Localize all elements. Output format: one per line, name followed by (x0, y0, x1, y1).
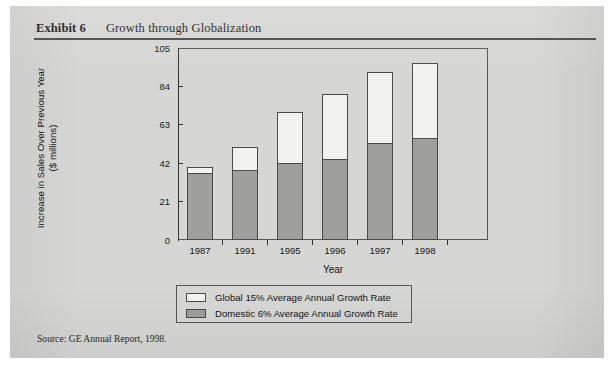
y-axis-title-line2: ($ millions) (47, 53, 59, 243)
bar-1987 (187, 167, 213, 240)
y-axis-title: Increase in Sales Over Previous Year ($ … (35, 53, 59, 243)
y-tick-label-84: 84 (136, 81, 170, 92)
bar-segment-domestic-1987 (187, 173, 213, 240)
x-tick-label-1991: 1991 (222, 245, 268, 256)
y-axis-line (178, 48, 179, 241)
legend-label-global: Global 15% Average Annual Growth Rate (215, 292, 391, 303)
y-tick-mark-63 (178, 124, 183, 125)
legend-entry-domestic: Domestic 6% Average Annual Growth Rate (186, 306, 411, 320)
y-tick-label-0: 0 (136, 235, 170, 246)
x-tick-label-1987: 1987 (177, 245, 223, 256)
legend-label-domestic: Domestic 6% Average Annual Growth Rate (215, 308, 398, 319)
y-tick-label-105: 105 (136, 43, 170, 54)
bar-1996 (322, 94, 348, 240)
bar-1997 (367, 72, 393, 240)
bar-segment-domestic-1991 (232, 170, 258, 240)
source-note: Source: GE Annual Report, 1998. (37, 333, 167, 344)
bar-segment-domestic-1996 (322, 159, 348, 240)
x-tick-label-1996: 1996 (312, 245, 358, 256)
y-tick-mark-84 (178, 86, 183, 87)
x-axis-title: Year (178, 264, 488, 275)
x-tick-label-1997: 1997 (357, 245, 403, 256)
bar-segment-domestic-1997 (367, 143, 393, 240)
bar-1998 (412, 63, 438, 240)
y-tick-mark-21 (178, 201, 183, 202)
y-tick-label-21: 21 (136, 196, 170, 207)
bar-segment-domestic-1995 (277, 163, 303, 240)
chart: 105 84 63 42 21 0 (10, 6, 604, 358)
legend-entry-global: Global 15% Average Annual Growth Rate (186, 290, 411, 304)
legend-swatch-domestic (186, 309, 206, 318)
x-tick-label-1998: 1998 (402, 245, 448, 256)
y-tick-label-63: 63 (136, 119, 170, 130)
y-axis-title-line1: Increase in Sales Over Previous Year (35, 53, 47, 243)
y-tick-mark-42 (178, 163, 183, 164)
legend-swatch-global (186, 293, 206, 302)
scanned-page: Exhibit 6 Growth through Globalization 1… (10, 6, 604, 358)
x-tick-label-1995: 1995 (267, 245, 313, 256)
bar-1991 (232, 147, 258, 240)
bar-segment-domestic-1998 (412, 138, 438, 240)
y-tick-label-42: 42 (136, 158, 170, 169)
legend: Global 15% Average Annual Growth Rate Do… (176, 285, 412, 323)
bar-1995 (277, 112, 303, 240)
